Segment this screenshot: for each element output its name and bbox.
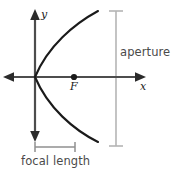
x-axis-label: x [140, 80, 146, 93]
diagram-canvas [0, 0, 174, 171]
y-axis-arrow-down [30, 131, 40, 142]
parabola-diagram: y x F aperture focal length [0, 0, 174, 171]
focal-length-bracket [35, 142, 75, 152]
aperture-label: aperture [120, 45, 170, 59]
focus-label: F [70, 80, 78, 93]
y-axis-arrow-up [30, 9, 40, 20]
aperture-bracket [109, 11, 123, 146]
y-axis-label: y [41, 8, 47, 21]
focal-length-label: focal length [21, 154, 90, 168]
x-axis-arrow-left [3, 72, 14, 82]
